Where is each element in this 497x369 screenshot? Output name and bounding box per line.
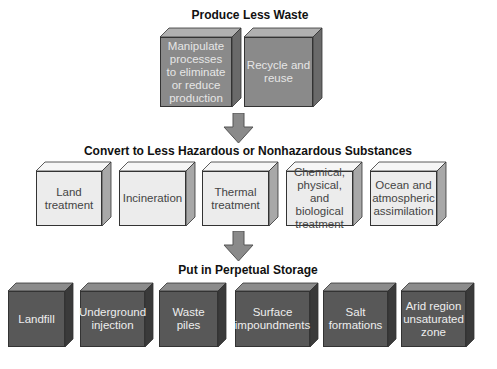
box-label-line: Manipulate [167, 40, 226, 53]
box-label-line: reuse [247, 72, 310, 85]
box-label-line: Underground [79, 306, 146, 319]
box-label-line: production [167, 92, 226, 105]
box-label: Ocean andatmosphericassimilation [370, 171, 437, 226]
box-label-line: injection [79, 319, 146, 332]
box-label: Chemical,physical, andbiologicaltreatmen… [286, 171, 353, 226]
down-arrow-icon [223, 231, 255, 263]
diagram-box: Chemical,physical, andbiologicaltreatmen… [286, 162, 362, 226]
diagram-box: Landtreatment [36, 162, 111, 226]
tier-heading-perpetual-storage: Put in Perpetual Storage [168, 263, 328, 277]
box-label-line: processes [167, 53, 226, 66]
box-label-line: treatment [45, 199, 94, 212]
box-label-line: atmospheric [372, 192, 435, 205]
box-label-line: to eliminate [167, 66, 226, 79]
box-label-line: Arid region [403, 300, 464, 313]
box-label-line: Incineration [123, 192, 182, 205]
box-label-line: Thermal [211, 186, 260, 199]
diagram-box: Thermaltreatment [202, 162, 278, 226]
diagram-box: Recycle andreuse [244, 28, 322, 107]
box-label: Landtreatment [36, 171, 102, 226]
diagram-box: Landfill [8, 283, 73, 347]
tier-heading-convert: Convert to Less Hazardous or Nonhazardou… [58, 144, 438, 158]
box-label-line: Land [45, 186, 94, 199]
box-label-line: Recycle and [247, 59, 310, 72]
box-label-line: piles [172, 319, 204, 332]
box-label: Recycle andreuse [244, 37, 313, 107]
diagram-box: Saltformations [323, 283, 396, 347]
box-label-line: or reduce [167, 79, 226, 92]
box-label-line: Chemical, [287, 166, 352, 179]
box-label-line: formations [329, 319, 383, 332]
box-label-line: Salt [329, 306, 383, 319]
box-label-line: treatment [211, 199, 260, 212]
diagram-box: Ocean andatmosphericassimilation [370, 162, 446, 226]
box-label: Saltformations [323, 291, 388, 347]
box-label-line: Waste [172, 306, 204, 319]
box-label: Thermaltreatment [202, 171, 269, 226]
box-label: Landfill [8, 291, 65, 347]
box-label-line: Landfill [18, 313, 54, 326]
box-label-line: zone [403, 326, 464, 339]
diagram-box: Wastepiles [159, 283, 226, 347]
box-label: Manipulateprocessesto eliminateor reduce… [160, 37, 232, 107]
tier-heading-produce-less-waste: Produce Less Waste [190, 8, 310, 22]
box-label: Incineration [119, 171, 186, 226]
diagram-box: Surfaceimpoundments [235, 283, 318, 347]
box-label-line: biological [287, 205, 352, 218]
box-label: Wastepiles [159, 291, 218, 347]
box-label-line: assimilation [372, 205, 435, 218]
diagram-box: Manipulateprocessesto eliminateor reduce… [160, 28, 241, 107]
box-label-line: Surface [235, 306, 310, 319]
box-label-line: physical, and [287, 179, 352, 205]
box-label: Arid regionunsaturatedzone [401, 291, 466, 347]
box-label: Undergroundinjection [80, 291, 145, 347]
diagram-box: Undergroundinjection [80, 283, 153, 347]
diagram-box: Incineration [119, 162, 195, 226]
box-label-line: unsaturated [403, 313, 464, 326]
box-label-line: Ocean and [372, 179, 435, 192]
diagram-box: Arid regionunsaturatedzone [401, 283, 474, 347]
box-label-line: treatment [287, 218, 352, 231]
box-label-line: impoundments [235, 319, 310, 332]
box-label: Surfaceimpoundments [235, 291, 310, 347]
down-arrow-icon [223, 113, 255, 145]
